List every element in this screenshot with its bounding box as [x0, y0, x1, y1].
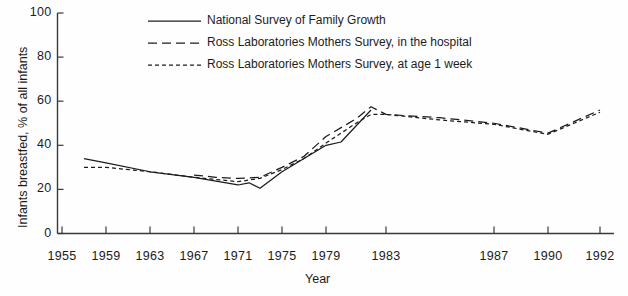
x-tick-label: 1983 [360, 249, 412, 263]
chart-series [84, 107, 600, 189]
y-tick-label: 100 [0, 5, 52, 19]
series-line-2 [194, 107, 600, 179]
x-tick-label: 1990 [522, 249, 574, 263]
x-tick-label: 1992 [574, 249, 626, 263]
y-axis-title: Infants breastfed, % of all infants [16, 47, 30, 228]
legend-label-2: Ross Laboratories Mothers Survey, in the… [207, 35, 472, 49]
breastfeeding-trend-chart: 0204060801001955195919631967197119751979… [0, 0, 628, 296]
x-axis-title: Year [305, 272, 330, 286]
x-tick-label: 1987 [468, 249, 520, 263]
legend-label-1: National Survey of Family Growth [207, 13, 386, 27]
x-tick-label: 1979 [300, 249, 352, 263]
legend-line-samples [148, 21, 201, 65]
series-line-3 [84, 112, 600, 181]
legend-label-3: Ross Laboratories Mothers Survey, at age… [207, 57, 472, 71]
series-line-1 [84, 110, 371, 188]
